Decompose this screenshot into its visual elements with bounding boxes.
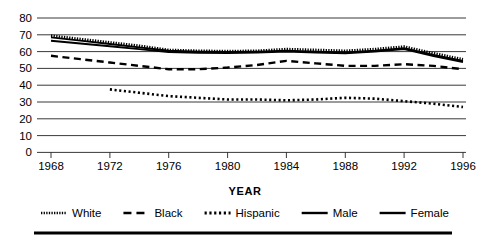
x-tick-label-1968: 1968 [38, 160, 64, 172]
x-axis-title: YEAR [229, 185, 262, 197]
legend-label-hispanic: Hispanic [236, 207, 280, 219]
x-tick-label-1988: 1988 [333, 160, 359, 172]
line-chart-figure: 80 70 60 50 40 30 20 10 0 1968 1972 1976… [0, 0, 479, 243]
y-tick-label-30: 30 [19, 96, 32, 108]
y-axis-tick-labels: 80 70 60 50 40 30 20 10 0 [19, 12, 32, 158]
y-tick-label-40: 40 [19, 79, 32, 91]
legend-label-black: Black [154, 207, 182, 219]
x-tick-label-1972: 1972 [97, 160, 123, 172]
legend-label-white: White [72, 207, 101, 219]
y-tick-label-0: 0 [26, 146, 32, 158]
legend-label-female: Female [411, 207, 449, 219]
x-tick-label-1980: 1980 [215, 160, 241, 172]
x-tick-label-1984: 1984 [274, 160, 300, 172]
x-tick-label-1992: 1992 [391, 160, 417, 172]
x-tick-label-1996: 1996 [450, 160, 476, 172]
y-tick-label-50: 50 [19, 62, 32, 74]
y-tick-label-80: 80 [19, 12, 32, 24]
y-tick-label-60: 60 [19, 46, 32, 58]
x-tick-label-1976: 1976 [156, 160, 182, 172]
y-tick-label-70: 70 [19, 29, 32, 41]
y-tick-label-10: 10 [19, 130, 32, 142]
legend-label-male: Male [333, 207, 358, 219]
y-tick-label-20: 20 [19, 113, 32, 125]
